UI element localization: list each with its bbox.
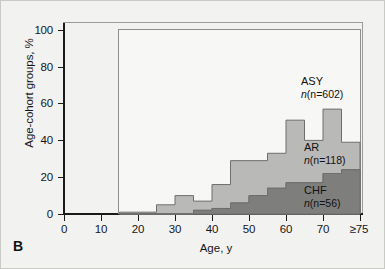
series-count-chf-value: (n=56) bbox=[310, 197, 341, 209]
series-count-asy: n(n=602) bbox=[301, 88, 343, 101]
figure-panel-b: 100 80 60 40 20 0 0 10 20 30 40 50 60 70… bbox=[0, 0, 385, 269]
series-count-ar: n(n=118) bbox=[304, 154, 346, 167]
panel-letter: B bbox=[13, 238, 23, 254]
series-annotation-asy: ASY n(n=602) bbox=[301, 75, 343, 101]
series-label-asy: ASY bbox=[301, 75, 343, 88]
series-count-ar-value: (n=118) bbox=[310, 154, 346, 166]
series-count-asy-value: (n=602) bbox=[307, 88, 343, 100]
x-axis-label: Age, y bbox=[151, 242, 281, 254]
series-count-chf: n(n=56) bbox=[304, 197, 341, 210]
series-annotation-ar: AR n(n=118) bbox=[304, 141, 346, 167]
series-label-chf: CHF bbox=[304, 184, 341, 197]
y-axis-label: Age-cohort groups, % bbox=[23, 18, 35, 168]
stacked-step-areas bbox=[1, 1, 385, 269]
series-annotation-chf: CHF n(n=56) bbox=[304, 184, 341, 210]
series-label-ar: AR bbox=[304, 141, 346, 154]
